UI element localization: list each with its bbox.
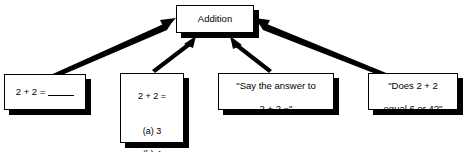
edge-multiple-choice-to-addition <box>152 41 193 73</box>
multiple-choice-option-list: (a) 3 (b) 4 (c) 5 (d) 6 <box>138 114 166 152</box>
node-fill-in-the-blank-label: 2 + 2 = <box>16 86 75 98</box>
node-binary-choice-body: "Does 2 + 2 equal 6 or 4?" <box>384 68 443 116</box>
oral-response-line-2: 2 + 2 =" <box>260 103 293 114</box>
node-binary-choice: "Does 2 + 2 equal 6 or 4?" <box>368 73 458 110</box>
node-addition-label: Addition <box>198 13 232 25</box>
diagram-canvas: Addition 2 + 2 = 2 + 2 = (a) 3 (b) 4 (c)… <box>0 0 468 152</box>
binary-choice-line-1: "Does 2 + 2 <box>388 80 438 91</box>
multiple-choice-stem: 2 + 2 = <box>138 91 166 103</box>
binary-choice-line-2: equal 6 or 4?" <box>384 103 443 114</box>
fill-in-the-blank-prefix: 2 + 2 = <box>16 86 46 97</box>
fill-in-the-blank-underline <box>48 95 74 96</box>
node-multiple-choice: 2 + 2 = (a) 3 (b) 4 (c) 5 (d) 6 <box>120 73 184 143</box>
node-multiple-choice-body: 2 + 2 = (a) 3 (b) 4 (c) 5 (d) 6 <box>138 80 166 152</box>
node-fill-in-the-blank: 2 + 2 = <box>4 74 86 110</box>
node-oral-response: "Say the answer to 2 + 2 =" <box>218 73 334 110</box>
multiple-choice-option: (b) 4 <box>138 149 166 152</box>
multiple-choice-option: (a) 3 <box>138 126 166 138</box>
node-oral-response-body: "Say the answer to 2 + 2 =" <box>236 68 315 116</box>
node-addition: Addition <box>176 5 254 33</box>
oral-response-line-1: "Say the answer to <box>236 80 315 91</box>
